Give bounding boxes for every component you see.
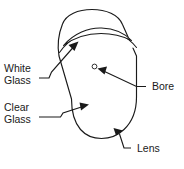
white-glass-label-line1: White [4, 62, 31, 74]
diagram-container: White Glass Clear Glass Bore Lens [0, 0, 184, 169]
white-glass-label-line2: Glass [4, 74, 31, 86]
lens-label: Lens [137, 142, 160, 154]
bore-hole [92, 64, 97, 69]
lens-leader-line [120, 134, 132, 148]
clear-glass-label-line1: Clear [4, 101, 30, 113]
clear-glass-label-line2: Glass [4, 113, 31, 125]
bore-label: Bore [152, 80, 174, 92]
glass-lamp-diagram: White Glass Clear Glass Bore Lens [0, 0, 184, 169]
